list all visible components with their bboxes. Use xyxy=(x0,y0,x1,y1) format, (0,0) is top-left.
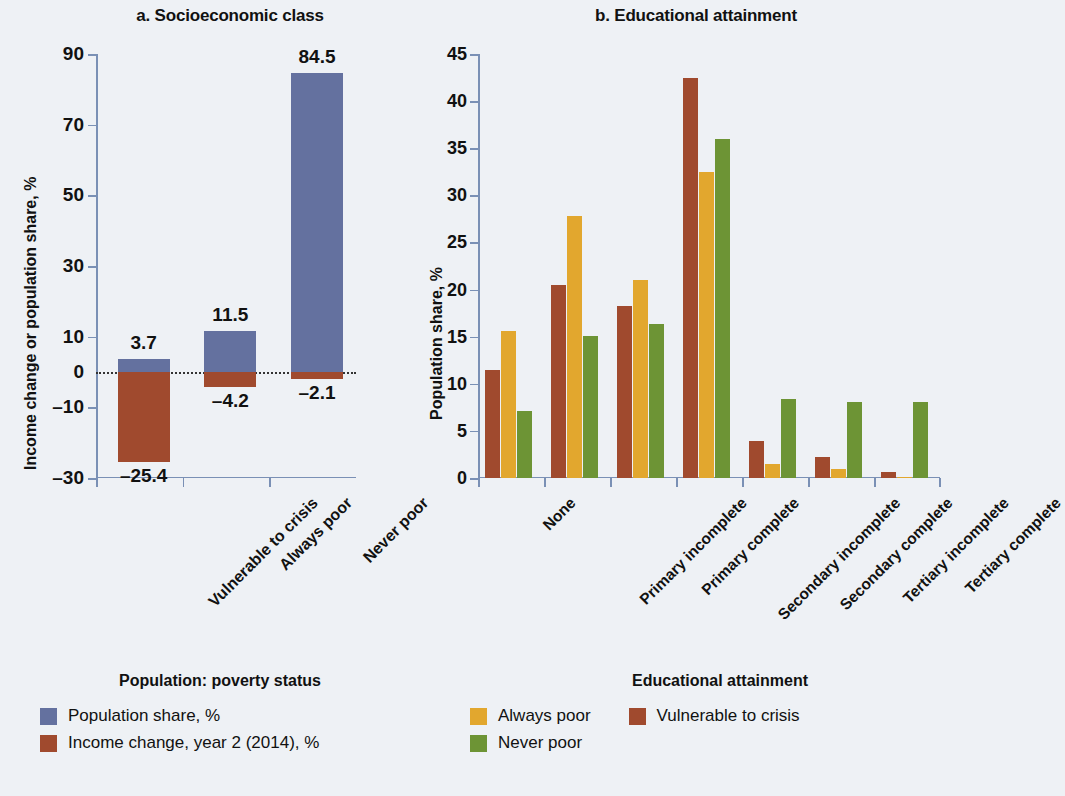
panel-b-x-tick xyxy=(676,478,678,487)
panel-b-y-tick xyxy=(470,148,478,150)
panel-b-legend-items: Always poorNever poorVulnerable to crisi… xyxy=(470,706,970,760)
panel-b-x-category-label: None xyxy=(540,494,580,534)
panel-b-y-tick xyxy=(470,337,478,339)
legend-swatch-green xyxy=(470,735,487,752)
panel-b-y-tick-label: 15 xyxy=(447,326,467,347)
panel-a-y-tick xyxy=(88,407,96,409)
panel-b-x-tick xyxy=(478,478,480,487)
panel-b-bar-green xyxy=(847,402,862,478)
panel-b-bar-gold xyxy=(897,477,912,478)
panel-a-y-tick-label: 30 xyxy=(63,255,84,277)
panel-a-y-tick xyxy=(88,478,96,480)
panel-b-bar-green xyxy=(913,402,928,478)
panel-b-x-tick xyxy=(610,478,612,487)
panel-b-bar-red xyxy=(749,441,764,478)
panel-b-y-tick-label: 0 xyxy=(457,468,467,489)
panel-b-bar-gold xyxy=(765,464,780,478)
panel-b-y-tick xyxy=(470,478,478,480)
panel-b-bar-red xyxy=(485,370,500,478)
panel-a-y-tick-label: 50 xyxy=(63,184,84,206)
panel-a-plot-area: –30–10010305070903.7–25.4Vulnerable to c… xyxy=(96,54,356,478)
panel-a-y-tick-label: 10 xyxy=(63,326,84,348)
panel-b-y-tick-label: 10 xyxy=(447,373,467,394)
panel-b-bar-green xyxy=(781,399,796,478)
panel-a-y-tick xyxy=(88,195,96,197)
panel-a-y-tick xyxy=(88,337,96,339)
panel-b-y-tick xyxy=(470,101,478,103)
panel-b-x-tick xyxy=(874,478,876,487)
panel-a-legend-items: Population share, %Income change, year 2… xyxy=(40,706,400,753)
legend-item: Income change, year 2 (2014), % xyxy=(40,733,400,753)
panel-b-y-tick xyxy=(470,195,478,197)
panel-a-bar-population-share xyxy=(291,73,343,372)
legend-label: Always poor xyxy=(498,706,591,726)
legend-label: Income change, year 2 (2014), % xyxy=(68,733,319,753)
panel-a-bar-income-change xyxy=(118,372,170,462)
panel-b-bar-green xyxy=(649,324,664,478)
panel-b-bar-gold xyxy=(831,469,846,478)
panel-b-y-tick-label: 40 xyxy=(447,91,467,112)
legend-column: Always poorNever poor xyxy=(470,706,591,760)
legend-swatch-red xyxy=(40,735,57,752)
panel-b-legend-title: Educational attainment xyxy=(470,672,970,690)
panel-b-bar-red xyxy=(551,285,566,478)
panel-educational-attainment: b. Educational attainment Population sha… xyxy=(420,0,972,660)
panel-b-bar-green xyxy=(517,411,532,478)
panel-b-y-tick-label: 45 xyxy=(447,44,467,65)
panel-b-bar-gold xyxy=(633,280,648,478)
panel-a-y-tick-label: 0 xyxy=(73,361,84,383)
panel-b-y-tick xyxy=(470,54,478,56)
panel-b-y-axis-label: Population share, % xyxy=(428,267,446,420)
panel-b-y-tick xyxy=(470,431,478,433)
legend-label: Population share, % xyxy=(68,706,220,726)
panel-b-x-category-label: Primary complete xyxy=(698,494,803,599)
panel-b-y-tick-label: 35 xyxy=(447,138,467,159)
legend-label: Vulnerable to crisis xyxy=(657,706,800,726)
panel-a-x-tick xyxy=(269,478,271,487)
panel-b-bar-gold xyxy=(699,172,714,478)
panel-a-y-tick-label: –10 xyxy=(52,396,84,418)
panel-b-bar-green xyxy=(583,336,598,478)
panel-a-y-tick xyxy=(88,54,96,56)
panel-a-y-tick-label: 90 xyxy=(63,43,84,65)
legend-item: Population share, % xyxy=(40,706,400,726)
panel-b-plot-area: 051015202530354045NonePrimary incomplete… xyxy=(478,54,940,478)
panel-a-x-tick xyxy=(96,478,98,487)
panel-a-y-axis xyxy=(96,54,98,478)
panel-a-bar-value-label: 11.5 xyxy=(212,304,248,326)
panel-b-x-tick xyxy=(544,478,546,487)
panel-a-legend-title: Population: poverty status xyxy=(40,672,400,690)
panel-b-y-tick xyxy=(470,242,478,244)
panel-b-y-tick-label: 20 xyxy=(447,279,467,300)
panel-b-y-tick-label: 25 xyxy=(447,232,467,253)
panel-b-x-tick xyxy=(939,478,941,487)
panel-a-y-tick-label: 70 xyxy=(63,114,84,136)
legend-item: Vulnerable to crisis xyxy=(629,706,800,726)
legend-swatch-gold xyxy=(470,708,487,725)
panel-socioeconomic-class: a. Socioeconomic class Income change or … xyxy=(0,0,420,660)
panel-a-bar-value-label: –4.2 xyxy=(212,390,249,412)
panel-b-y-axis xyxy=(478,54,480,478)
panel-a-bar-income-change xyxy=(291,372,343,379)
legend-item: Always poor xyxy=(470,706,591,726)
panel-b-bar-red xyxy=(617,306,632,478)
panel-b-bar-gold xyxy=(501,331,516,478)
panel-b-legend: Educational attainment Always poorNever … xyxy=(470,672,970,760)
panel-a-bar-income-change xyxy=(204,372,256,387)
panel-a-bar-value-label: –25.4 xyxy=(120,465,168,487)
panel-b-y-tick xyxy=(470,384,478,386)
panel-b-x-tick xyxy=(808,478,810,487)
panel-b-y-tick-label: 5 xyxy=(457,420,467,441)
panel-a-title: a. Socioeconomic class xyxy=(0,6,440,26)
panel-a-y-tick xyxy=(88,125,96,127)
legend-label: Never poor xyxy=(498,733,582,753)
panel-b-bar-red xyxy=(815,457,830,478)
legend-item: Never poor xyxy=(470,733,591,753)
panel-b-x-category-label: Tertiary complete xyxy=(962,494,1065,597)
panel-b-x-tick xyxy=(742,478,744,487)
panel-a-y-axis-label: Income change or population share, % xyxy=(22,177,40,470)
panel-b-bar-red xyxy=(881,472,896,478)
panel-b-bar-green xyxy=(715,139,730,478)
panel-a-x-tick xyxy=(183,478,185,487)
panel-b-title: b. Educational attainment xyxy=(420,6,972,26)
